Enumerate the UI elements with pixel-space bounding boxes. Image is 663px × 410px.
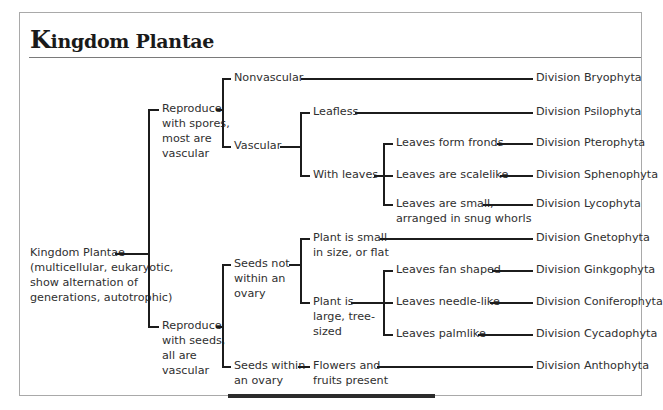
connector bbox=[300, 175, 310, 177]
not-in-ovary-node: Seeds not within an ovary bbox=[234, 256, 290, 301]
fan-node: Leaves fan shaped bbox=[396, 262, 501, 277]
title-initial: K bbox=[30, 25, 51, 54]
connector bbox=[383, 143, 393, 145]
division-bryophyta: Division Bryophyta bbox=[536, 70, 642, 85]
connector bbox=[478, 334, 533, 336]
connector bbox=[377, 366, 533, 368]
in-ovary-node: Seeds within an ovary bbox=[234, 358, 305, 388]
flowers-node: Flowers and fruits present bbox=[313, 358, 388, 388]
bracket-vascular bbox=[300, 112, 302, 176]
seeds-line-3: all are bbox=[162, 348, 225, 363]
connector bbox=[115, 253, 149, 255]
division-cycadophyta: Division Cycadophyta bbox=[536, 326, 657, 341]
small-leaves-line-2: arranged in snug whorls bbox=[396, 211, 532, 226]
connector bbox=[383, 334, 393, 336]
connector bbox=[301, 78, 533, 80]
vascular-node: Vascular bbox=[234, 138, 281, 153]
connector bbox=[383, 175, 393, 177]
seeds-line-2: with seeds, bbox=[162, 333, 225, 348]
spores-line-4: vascular bbox=[162, 146, 230, 161]
small-leaves-node: Leaves are small, arranged in snug whorl… bbox=[396, 196, 532, 226]
title-divider bbox=[29, 57, 641, 58]
connector bbox=[300, 112, 310, 114]
bottom-accent-bar bbox=[228, 394, 435, 398]
seeds-line-4: vascular bbox=[162, 363, 225, 378]
connector bbox=[222, 366, 231, 368]
connector bbox=[380, 238, 533, 240]
root-line-3: show alternation of bbox=[30, 275, 173, 290]
connector bbox=[222, 78, 231, 80]
palm-node: Leaves palmlike bbox=[396, 326, 486, 341]
large-plant-line-2: large, tree- bbox=[313, 309, 375, 324]
nonvascular-node: Nonvascular bbox=[234, 70, 303, 85]
division-psilophyta: Division Psilophyta bbox=[536, 104, 641, 119]
connector bbox=[148, 109, 159, 111]
connector bbox=[298, 366, 310, 368]
bracket-not-in-ovary bbox=[300, 238, 302, 303]
division-pterophyta: Division Pterophyta bbox=[536, 135, 645, 150]
connector bbox=[148, 326, 159, 328]
leafless-node: Leafless bbox=[313, 104, 358, 119]
connector bbox=[222, 146, 231, 148]
small-plant-line-1: Plant is small bbox=[313, 230, 389, 245]
connector bbox=[500, 175, 533, 177]
connector bbox=[383, 270, 393, 272]
root-node: Kingdom Plantae (multicellular, eukaryot… bbox=[30, 245, 173, 305]
fronds-node: Leaves form fronds bbox=[396, 135, 503, 150]
bracket-seeds bbox=[222, 264, 224, 367]
division-sphenophyta: Division Sphenophyta bbox=[536, 167, 658, 182]
connector bbox=[492, 270, 533, 272]
connector bbox=[300, 238, 310, 240]
small-plant-line-2: in size, or flat bbox=[313, 245, 389, 260]
diagram-title: Kingdom Plantae bbox=[30, 25, 214, 54]
division-ginkgophyta: Division Ginkgophyta bbox=[536, 262, 655, 277]
needle-node: Leaves needle-like bbox=[396, 294, 500, 309]
connector bbox=[383, 302, 393, 304]
bracket-with-leaves bbox=[383, 143, 385, 205]
not-in-ovary-line-2: within an bbox=[234, 271, 290, 286]
flowers-line-2: fruits present bbox=[313, 373, 388, 388]
division-lycophyta: Division Lycophyta bbox=[536, 196, 641, 211]
connector bbox=[383, 204, 393, 206]
division-gnetophyta: Division Gnetophyta bbox=[536, 230, 650, 245]
connector bbox=[355, 112, 533, 114]
spores-line-3: most are bbox=[162, 131, 230, 146]
root-line-1: Kingdom Plantae bbox=[30, 245, 173, 260]
in-ovary-line-2: an ovary bbox=[234, 373, 305, 388]
connector bbox=[351, 302, 384, 304]
title-rest: ingdom Plantae bbox=[51, 30, 215, 52]
with-leaves-node: With leaves bbox=[313, 167, 378, 182]
in-ovary-line-1: Seeds within bbox=[234, 358, 305, 373]
division-anthophyta: Division Anthophyta bbox=[536, 358, 649, 373]
connector bbox=[497, 143, 533, 145]
not-in-ovary-line-1: Seeds not bbox=[234, 256, 290, 271]
connector bbox=[490, 302, 533, 304]
division-coniferophyta: Division Coniferophyta bbox=[536, 294, 663, 309]
connector bbox=[222, 264, 231, 266]
connector bbox=[280, 146, 301, 148]
scalelike-node: Leaves are scalelike bbox=[396, 167, 508, 182]
connector bbox=[300, 302, 310, 304]
spores-line-2: with spores, bbox=[162, 116, 230, 131]
large-plant-node: Plant is large, tree- sized bbox=[313, 294, 375, 339]
root-line-2: (multicellular, eukaryotic, bbox=[30, 260, 173, 275]
connector bbox=[483, 204, 533, 206]
not-in-ovary-line-3: ovary bbox=[234, 286, 290, 301]
bracket-spores bbox=[222, 78, 224, 147]
large-plant-line-3: sized bbox=[313, 324, 375, 339]
small-plant-node: Plant is small in size, or flat bbox=[313, 230, 389, 260]
root-line-4: generations, autotrophic) bbox=[30, 290, 173, 305]
bracket-root bbox=[148, 109, 150, 327]
